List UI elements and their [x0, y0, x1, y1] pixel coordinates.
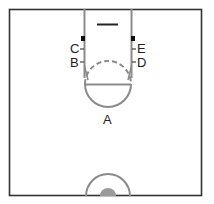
- block-marker-right: [131, 36, 135, 41]
- block-marker-left: [81, 36, 85, 41]
- court-boundary: [10, 10, 202, 196]
- label-a: A: [103, 112, 112, 127]
- label-e: E: [137, 41, 146, 56]
- center-circle-inner: [100, 188, 116, 196]
- free-throw-circle-bottom: [85, 84, 131, 107]
- free-throw-circle-top-dashed: [85, 61, 131, 84]
- court-diagram: C B E D A: [0, 0, 214, 204]
- label-c: C: [70, 41, 79, 56]
- label-d: D: [137, 55, 146, 70]
- label-b: B: [70, 55, 79, 70]
